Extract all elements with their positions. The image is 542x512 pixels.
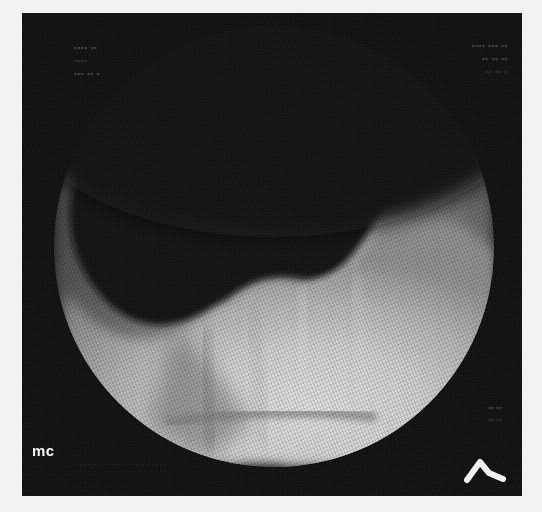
annotation-tl-line-1: •••• •• [74, 41, 100, 54]
cavity-top-lobe [54, 27, 494, 237]
annotation-tr-line-1: •••• ••• •• [472, 39, 508, 52]
mc-watermark: mc [32, 443, 55, 458]
top-left-annotations: •••• •• •••• ••• •• • [74, 41, 100, 80]
bottom-scale-strip: ··························· [74, 461, 167, 468]
tissue-svg [54, 27, 494, 467]
tissue-render [54, 27, 494, 467]
annotation-tr-line-2: •• •• •• [472, 52, 508, 65]
chevron-orientation-marker-icon [464, 454, 506, 484]
bottom-right-annotations: •• •• •• •• [488, 402, 502, 426]
top-right-annotations: •••• ••• •• •• •• •• •• •• • [472, 39, 508, 78]
annotation-tl-line-2: •••• [74, 54, 100, 67]
annotation-br-line-1: •• •• [488, 402, 502, 414]
annotation-br-line-2: •• •• [488, 414, 502, 426]
image-page: •••• •• •••• ••• •• • •••• ••• •• •• •• … [0, 0, 542, 512]
ultrasound-scan-frame: •••• •• •••• ••• •• • •••• ••• •• •• •• … [22, 13, 522, 496]
annotation-tr-line-3: •• •• • [472, 65, 508, 78]
scan-field-circle [54, 27, 494, 467]
annotation-tl-line-3: ••• •• • [74, 67, 100, 80]
